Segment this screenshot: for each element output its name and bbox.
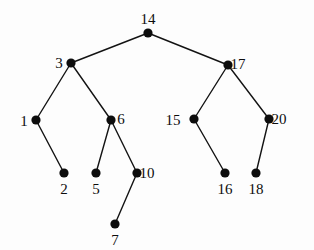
tree-edge — [71, 63, 111, 120]
tree-node-14[interactable] — [143, 28, 152, 37]
tree-node-2[interactable] — [59, 168, 68, 177]
tree-edge — [228, 65, 269, 119]
tree-node-6[interactable] — [106, 115, 115, 124]
tree-graphics — [0, 0, 314, 250]
node-label-3: 3 — [55, 56, 63, 71]
node-label-10: 10 — [140, 166, 155, 181]
node-label-6: 6 — [117, 112, 125, 127]
tree-edge — [96, 120, 111, 173]
node-label-18: 18 — [249, 182, 264, 197]
tree-edge — [36, 63, 71, 120]
node-label-17: 17 — [231, 57, 246, 72]
tree-node-1[interactable] — [31, 115, 40, 124]
tree-node-18[interactable] — [251, 168, 260, 177]
node-label-7: 7 — [111, 233, 119, 248]
tree-node-15[interactable] — [189, 114, 198, 123]
node-label-1: 1 — [20, 114, 28, 129]
tree-diagram-canvas: 14317161520251016187 — [0, 0, 314, 250]
tree-node-5[interactable] — [91, 168, 100, 177]
tree-edge — [36, 120, 64, 173]
node-label-20: 20 — [272, 112, 287, 127]
tree-node-16[interactable] — [220, 168, 229, 177]
tree-edge — [115, 173, 137, 224]
node-label-15: 15 — [166, 113, 181, 128]
tree-node-7[interactable] — [110, 219, 119, 228]
node-label-5: 5 — [92, 182, 100, 197]
tree-edge — [71, 33, 148, 63]
tree-edge — [111, 120, 137, 173]
node-label-2: 2 — [60, 182, 68, 197]
tree-edge — [194, 65, 228, 119]
tree-edge — [256, 119, 269, 173]
node-label-14: 14 — [141, 12, 156, 27]
node-label-16: 16 — [218, 182, 233, 197]
tree-edge — [194, 119, 225, 173]
tree-node-3[interactable] — [66, 58, 75, 67]
tree-edge — [148, 33, 228, 65]
